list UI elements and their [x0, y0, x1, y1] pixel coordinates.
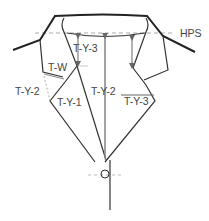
collar-diagram: HPS T-Y-3 T-W T-Y-2 T-Y-1 T-Y-2 T-Y-3 [0, 0, 209, 221]
label-ty2-center: T-Y-2 [91, 85, 116, 97]
label-tw: T-W [48, 61, 67, 73]
label-ty3-top: T-Y-3 [73, 42, 98, 54]
label-ty3-right: T-Y-3 [124, 95, 149, 107]
right-collar-edge [144, 36, 168, 80]
label-hps: HPS [180, 27, 202, 39]
left-lapel-edge [50, 18, 95, 162]
button-icon [101, 170, 109, 178]
ty2-left-measure-line [44, 76, 50, 101]
left-front-edge [77, 66, 106, 160]
label-ty2-left: T-Y-2 [15, 85, 40, 97]
label-ty1: T-Y-1 [57, 96, 82, 108]
